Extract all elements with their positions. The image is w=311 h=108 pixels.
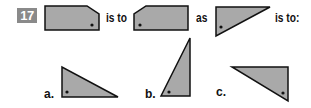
is-to-text-2: is to:	[275, 11, 299, 25]
figure-2-cut-rectangle	[134, 6, 188, 30]
figure-1-cut-rectangle	[45, 6, 99, 30]
figure-3-triangle	[216, 7, 270, 36]
option-a-label[interactable]: a.	[44, 87, 54, 101]
option-c-triangle[interactable]	[232, 67, 288, 101]
as-text: as	[196, 11, 207, 25]
option-b-triangle[interactable]	[161, 38, 190, 96]
option-a-triangle[interactable]	[62, 67, 118, 97]
is-to-text-1: is to	[106, 11, 127, 25]
option-b-label[interactable]: b.	[145, 87, 156, 101]
option-c-label[interactable]: c.	[216, 85, 226, 99]
